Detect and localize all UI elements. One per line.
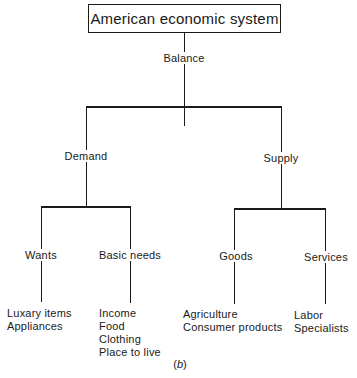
leaf-item: Clothing bbox=[99, 333, 161, 346]
goods-label: Goods bbox=[218, 250, 253, 262]
leaf-item: Food bbox=[99, 320, 161, 333]
wants-label: Wants bbox=[24, 249, 58, 261]
level1-horizontal-line bbox=[86, 106, 282, 108]
root-node-title: American economic system bbox=[90, 10, 278, 27]
leaf-item: Luxary items bbox=[7, 307, 72, 320]
wants-items-list: Luxary items Appliances bbox=[7, 307, 72, 333]
basic-needs-items-list: Income Food Clothing Place to live bbox=[99, 307, 161, 359]
root-trunk-line bbox=[184, 33, 186, 126]
root-node-box: American economic system bbox=[88, 4, 281, 33]
services-items-list: Labor Specialists bbox=[294, 309, 349, 335]
economic-system-tree-diagram: American economic system Balance Demand … bbox=[0, 0, 357, 378]
figure-caption: (b) bbox=[173, 358, 186, 370]
leaf-item: Specialists bbox=[294, 322, 349, 335]
leaf-item: Income bbox=[99, 307, 161, 320]
supply-horizontal-line bbox=[234, 208, 326, 210]
basic-needs-label: Basic needs bbox=[98, 249, 162, 261]
demand-horizontal-line bbox=[41, 206, 131, 208]
leaf-item: Agriculture bbox=[183, 308, 282, 321]
leaf-item: Place to live bbox=[99, 346, 161, 359]
services-label: Services bbox=[303, 251, 349, 263]
goods-items-list: Agriculture Consumer products bbox=[183, 308, 282, 334]
demand-label: Demand bbox=[64, 150, 109, 162]
balance-label: Balance bbox=[162, 52, 205, 64]
leaf-item: Labor bbox=[294, 309, 349, 322]
leaf-item: Consumer products bbox=[183, 321, 282, 334]
supply-label: Supply bbox=[263, 152, 300, 164]
leaf-item: Appliances bbox=[7, 320, 72, 333]
